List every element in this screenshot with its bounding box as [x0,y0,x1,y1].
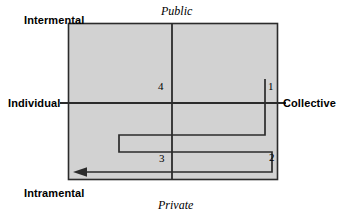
step-label-4: 4 [158,80,164,92]
axis-label-private: Private [158,198,193,213]
axis-label-intermental: Intermental [24,14,84,26]
step-label-1: 1 [268,80,274,92]
axis-label-individual: Individual [8,97,60,109]
matrix-diagram-graphics [0,0,352,218]
axis-label-public: Public [161,4,192,19]
step-label-2: 2 [269,151,275,163]
diagram-canvas: Intermental Intramental Individual Colle… [0,0,352,218]
plot-area-rect [69,24,278,180]
step-label-3: 3 [159,152,165,164]
axis-label-intramental: Intramental [24,187,84,199]
axis-label-collective: Collective [283,97,336,109]
